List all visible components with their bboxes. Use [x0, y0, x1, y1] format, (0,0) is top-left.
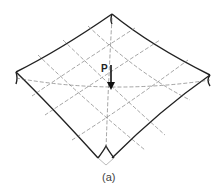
figure-caption: (a)	[102, 171, 115, 183]
plate-diagram	[0, 0, 220, 189]
load-label-p: P	[101, 63, 108, 74]
bottom-corner-fold	[98, 158, 114, 165]
